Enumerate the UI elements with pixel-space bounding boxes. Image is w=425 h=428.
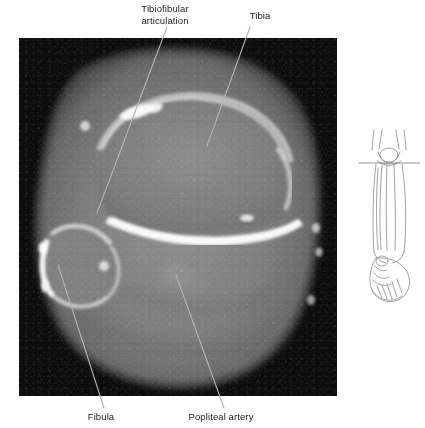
tarsal-2 [374, 273, 389, 278]
femur-left-outline [372, 130, 374, 150]
label-tibiofibular-line1: Tibiofibular [119, 3, 211, 15]
tibia-shaft-medial [386, 165, 387, 250]
metatarsal-4 [392, 282, 397, 297]
label-tibiofibular-articulation: Tibiofibular articulation [119, 3, 211, 26]
leg-outer-right-outline [402, 164, 406, 252]
metatarsal-5 [397, 279, 402, 293]
talus-outline [376, 256, 388, 266]
tarsal-1 [375, 266, 387, 271]
femur-right-outline [404, 130, 406, 150]
fibula-shaft [380, 165, 382, 250]
metatarsal-2 [382, 285, 387, 299]
fibula-outer [377, 168, 379, 250]
leg-line-drawing [358, 128, 420, 308]
tibia-shaft-lateral [394, 165, 395, 250]
femoral-condyles [378, 152, 400, 163]
label-tibia: Tibia [205, 10, 315, 22]
axial-ct-image [19, 38, 337, 396]
tarsal-3 [373, 280, 391, 285]
label-tibiofibular-line2: articulation [119, 15, 211, 27]
leg-orientation-diagram [358, 128, 420, 308]
label-fibula: Fibula [55, 411, 147, 423]
metatarsal-3 [387, 284, 392, 299]
ct-figure: Tibiofibular articulation Tibia Fibula P… [0, 0, 425, 428]
ct-grain-overlay [19, 38, 337, 396]
femur-shaft-right [396, 130, 399, 149]
femur-shaft-left [379, 130, 382, 149]
label-popliteal-artery: Popliteal artery [151, 411, 291, 423]
leg-outer-left-outline [373, 164, 376, 252]
ct-scan-graphic [19, 38, 337, 396]
ankle-right [392, 252, 404, 263]
